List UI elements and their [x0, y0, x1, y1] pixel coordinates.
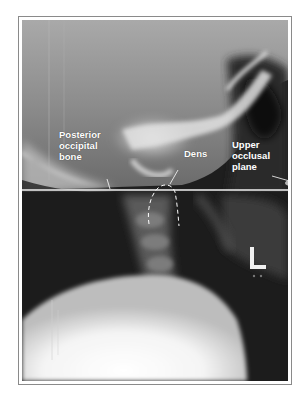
label-line: occlusal [232, 150, 270, 161]
label-line: plane [232, 161, 270, 172]
label-line: occipital [59, 140, 101, 151]
figure-frame: Posterior occipital bone Dens Upper occl… [18, 16, 292, 385]
label-line: Posterior [59, 129, 101, 140]
label-line: Dens [184, 148, 207, 159]
label-posterior-occipital-bone: Posterior occipital bone [59, 129, 101, 162]
xray-image: Posterior occipital bone Dens Upper occl… [22, 20, 288, 381]
label-upper-occlusal-plane: Upper occlusal plane [232, 139, 270, 172]
label-line: Upper [232, 139, 270, 150]
label-dens: Dens [184, 148, 207, 159]
label-line: bone [59, 151, 101, 162]
xray-graphic [22, 20, 288, 381]
